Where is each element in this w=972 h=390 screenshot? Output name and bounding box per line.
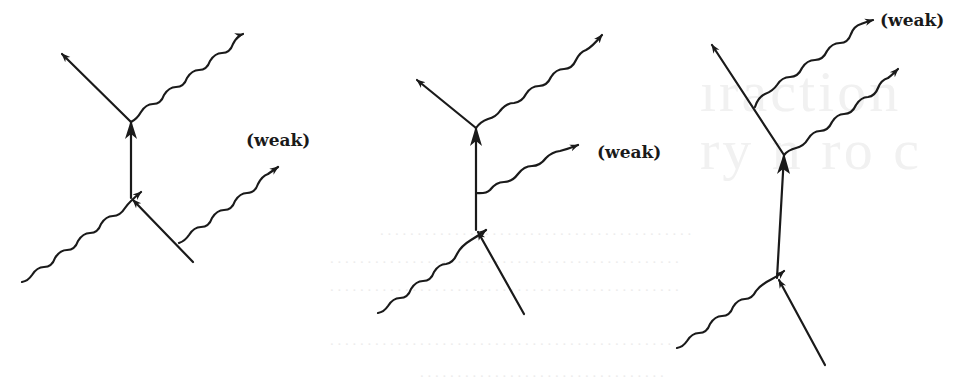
electron-propagator [470,126,482,230]
electron-propagator [777,153,790,278]
weak-photon [755,20,873,107]
weak-label-2: (weak) [597,142,661,162]
weak-label-1: (weak) [246,130,310,150]
outgoing-electron [62,54,131,122]
incoming-photon [22,192,141,282]
weak-photon [179,167,278,243]
diagram-2 [378,35,602,314]
weak-label-3: (weak) [880,10,944,30]
feynman-diagram-figure: (weak) (weak) (weak) [0,0,972,390]
incoming-electron [779,280,825,365]
weak-photon [476,145,578,193]
outgoing-photon [476,35,602,128]
diagram-3 [677,20,898,365]
outgoing-electron [712,45,784,155]
incoming-electron [133,200,193,262]
outgoing-electron [417,80,476,128]
electron-propagator [125,120,137,198]
outgoing-photon [131,34,243,122]
diagram-1 [22,34,278,282]
incoming-photon [677,271,784,348]
outgoing-photon [784,69,898,155]
incoming-electron [478,232,524,314]
incoming-photon [378,230,486,313]
